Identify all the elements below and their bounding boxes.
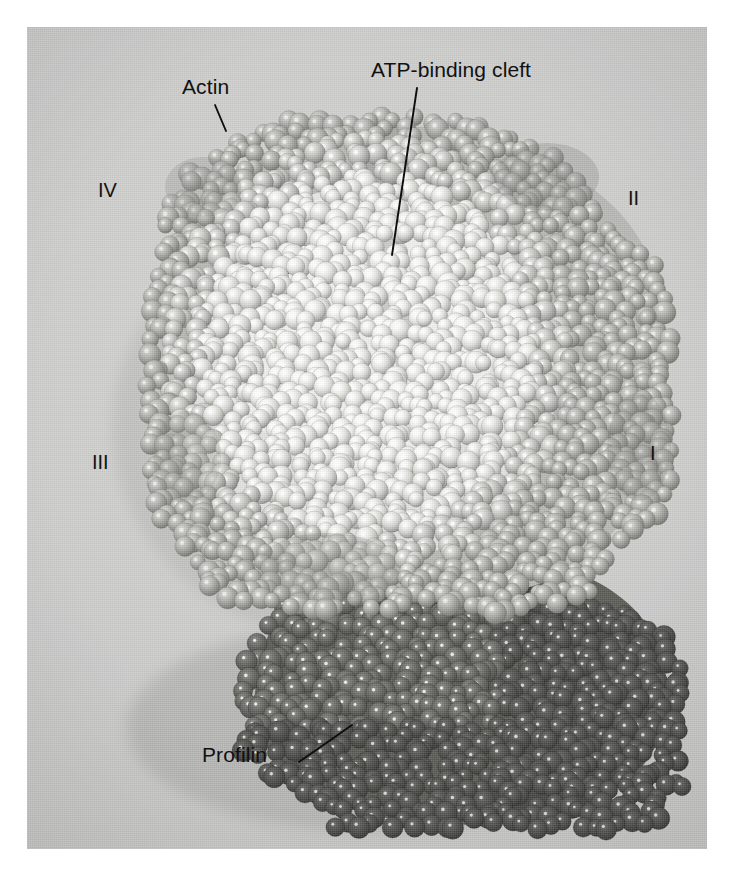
figure-root: ActinATP-binding cleftProfilin IVIIIIII xyxy=(0,0,736,875)
annotation-label-profilin: Profilin xyxy=(202,744,267,765)
annotation-label-actin: Actin xyxy=(182,76,229,97)
label-domain-i: I xyxy=(650,443,656,463)
label-domain-iv: IV xyxy=(98,180,117,200)
label-domain-iii: III xyxy=(92,452,109,472)
photographic-plate: ActinATP-binding cleftProfilin IVIIIIII xyxy=(27,27,707,849)
molecule-space-filling-model xyxy=(27,27,707,849)
label-domain-ii: II xyxy=(628,188,639,208)
annotation-label-atp-binding-cleft: ATP-binding cleft xyxy=(371,59,531,80)
